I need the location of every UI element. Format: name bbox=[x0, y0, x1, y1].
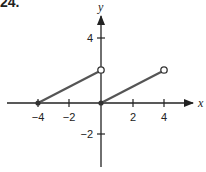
open-point bbox=[98, 67, 104, 73]
x-tick-label: −4 bbox=[32, 111, 45, 123]
y-tick-label: −2 bbox=[80, 128, 93, 140]
closed-point bbox=[98, 100, 103, 105]
graph: −4 −2 2 4 4 −2 x y bbox=[0, 0, 206, 172]
open-point bbox=[161, 67, 167, 73]
x-tick-label: 2 bbox=[130, 111, 136, 123]
segment-2 bbox=[101, 72, 161, 103]
x-tick-label: 4 bbox=[161, 111, 167, 123]
x-tick-label: −2 bbox=[63, 111, 76, 123]
segment-1 bbox=[38, 72, 98, 103]
closed-point bbox=[35, 100, 40, 105]
y-tick-label: 4 bbox=[87, 32, 93, 44]
y-axis-label: y bbox=[97, 0, 104, 14]
x-axis-label: x bbox=[197, 96, 204, 110]
